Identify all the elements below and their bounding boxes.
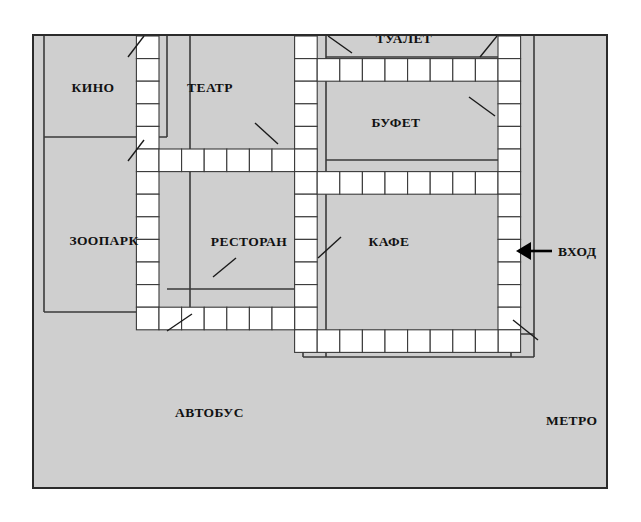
corridor-cell [340, 330, 363, 353]
corridor-cell [498, 104, 521, 127]
room-label-restoran: РЕСТОРАН [211, 234, 287, 249]
corridor-cell [295, 149, 318, 172]
teatr-leader [255, 123, 278, 144]
corridor-cell [136, 194, 159, 217]
corridor-cell [453, 330, 476, 353]
corridor-cell [136, 81, 159, 104]
corridor-cell [430, 330, 453, 353]
corridor-cell [453, 172, 476, 195]
corridor-cell [385, 59, 408, 82]
corridor-cell [136, 217, 159, 240]
corridor-cell [453, 59, 476, 82]
corridor-cell [498, 307, 521, 330]
corridor-cell [498, 81, 521, 104]
corridor-cell [317, 172, 340, 195]
corridor-cell [408, 172, 431, 195]
corridor-cell [475, 172, 498, 195]
room-label-kafe: КАФЕ [369, 234, 410, 249]
tualet-leader-r [480, 36, 497, 57]
corridor-cell [498, 172, 521, 195]
corridor-cell [295, 59, 318, 82]
corridor-cell [498, 217, 521, 240]
corridor-cell [295, 126, 318, 149]
corridor-cell [498, 239, 521, 262]
corridor-cell [295, 172, 318, 195]
corridor-cell [475, 59, 498, 82]
corridor-cell [295, 104, 318, 127]
corridor-cell [430, 172, 453, 195]
corridor-cell [317, 330, 340, 353]
room-label-teatr: ТЕАТР [187, 80, 233, 95]
corridor-cell [295, 330, 318, 353]
corridor-cell [498, 194, 521, 217]
corridor-cell [136, 36, 159, 59]
corridor-cell [340, 172, 363, 195]
room-label-zoopark: ЗООПАРК [69, 233, 138, 248]
corridor-cell [408, 330, 431, 353]
corridor-cell [182, 149, 205, 172]
corridor-cell [362, 330, 385, 353]
corridor-cell [408, 59, 431, 82]
corridor-cell [159, 149, 182, 172]
corridor-cell [227, 149, 250, 172]
kafe-leader [318, 237, 341, 258]
corridor-cell [317, 59, 340, 82]
corridor-cell [498, 36, 521, 59]
corridor-cell [136, 239, 159, 262]
floorplan-svg: КИНОТЕАТРТУАЛЕТБУФЕТЗООПАРКРЕСТОРАНКАФЕ [34, 36, 606, 487]
corridor-cell [498, 59, 521, 82]
corridor-cell [204, 149, 227, 172]
corridor-cell [227, 307, 250, 330]
corridor-cell [295, 239, 318, 262]
tualet-leader-l [328, 36, 352, 53]
restoran-leader [213, 258, 236, 277]
corridor-cell [136, 285, 159, 308]
room-label-tualet: ТУАЛЕТ [376, 36, 433, 46]
corridor-cell [295, 36, 318, 59]
corridor-cell [498, 149, 521, 172]
corridor-cell [272, 149, 295, 172]
corridor-cell [136, 262, 159, 285]
corridor-cell [136, 149, 159, 172]
corridor-cell [498, 330, 521, 353]
corridor-cell [362, 172, 385, 195]
corridor-cell [498, 285, 521, 308]
corridor-cell [136, 104, 159, 127]
corridor-cell [249, 307, 272, 330]
map-frame: КИНОТЕАТРТУАЛЕТБУФЕТЗООПАРКРЕСТОРАНКАФЕ [32, 34, 608, 489]
corridor-cell [249, 149, 272, 172]
corridor-cell [340, 59, 363, 82]
corridor-cell [295, 81, 318, 104]
corridor-cell [498, 126, 521, 149]
bufet-leader [469, 97, 495, 116]
corridor-cell [204, 307, 227, 330]
corridor-cell [385, 330, 408, 353]
corridor-cell [295, 307, 318, 330]
corridor-cell [498, 262, 521, 285]
corridor-cell [475, 330, 498, 353]
corridor-cell [385, 172, 408, 195]
corridor-cell [272, 307, 295, 330]
corridor-cell [430, 59, 453, 82]
corridor-cell [159, 307, 182, 330]
page-root: КИНОТЕАТРТУАЛЕТБУФЕТЗООПАРКРЕСТОРАНКАФЕ … [0, 0, 641, 522]
room-label-kino: КИНО [72, 80, 115, 95]
corridor-cell [295, 262, 318, 285]
corridor-cell [136, 307, 159, 330]
room-label-bufet: БУФЕТ [372, 115, 421, 130]
corridor-cell [136, 59, 159, 82]
corridor-cell [362, 59, 385, 82]
corridor-cell [136, 172, 159, 195]
corridor-cell [295, 285, 318, 308]
corridor-cell [295, 194, 318, 217]
corridor-cell [295, 217, 318, 240]
